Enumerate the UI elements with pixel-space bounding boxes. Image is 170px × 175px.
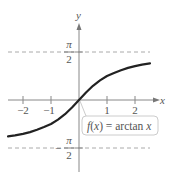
x-tick-label: 2 bbox=[132, 104, 138, 116]
pi-numerator-bottom: π bbox=[66, 134, 72, 146]
x-tick-label: −2 bbox=[17, 104, 29, 116]
x-tick-label: −1 bbox=[43, 104, 55, 116]
y-axis-arrow-icon bbox=[77, 23, 82, 30]
pi-sign-bottom: − bbox=[55, 142, 61, 154]
callout-mid: ) = arctan bbox=[99, 120, 146, 133]
callout-x2: x bbox=[145, 120, 152, 132]
callout-label: f(x) = arctan x bbox=[87, 120, 152, 133]
arctan-graph: −2 −1 1 2 x y π 2 − π 2 f(x) = arctan x bbox=[0, 0, 170, 175]
x-tick-label: 1 bbox=[104, 104, 110, 116]
y-axis-label: y bbox=[75, 9, 81, 21]
pi-denominator-top: 2 bbox=[66, 53, 72, 65]
pi-numerator-top: π bbox=[66, 38, 72, 50]
x-axis-label: x bbox=[159, 94, 165, 106]
pi-denominator-bottom: 2 bbox=[66, 149, 72, 161]
chart-svg: −2 −1 1 2 x y π 2 − π 2 f(x) = arctan x bbox=[0, 0, 170, 175]
x-axis-arrow-icon bbox=[153, 98, 160, 103]
